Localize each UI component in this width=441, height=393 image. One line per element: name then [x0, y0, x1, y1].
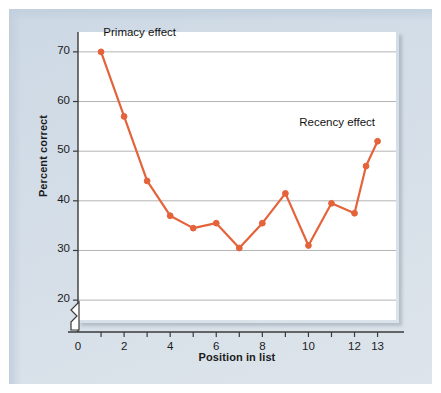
- data-point[interactable]: [306, 243, 312, 249]
- y-axis-break-icon: [71, 302, 79, 330]
- data-point[interactable]: [98, 49, 104, 55]
- data-point[interactable]: [352, 210, 358, 216]
- data-point[interactable]: [329, 200, 335, 206]
- data-point[interactable]: [259, 220, 265, 226]
- data-point[interactable]: [282, 190, 288, 196]
- data-point[interactable]: [236, 245, 242, 251]
- axis-break-zigzag: [71, 302, 79, 330]
- y-axis-title: Percent correct: [37, 96, 49, 216]
- recency-effect-label: Recency effect: [299, 116, 375, 128]
- data-point[interactable]: [213, 220, 219, 226]
- data-point[interactable]: [375, 138, 381, 144]
- y-tick-label-30: 30: [36, 242, 70, 254]
- primacy-effect-label: Primacy effect: [103, 26, 176, 38]
- data-point[interactable]: [121, 114, 127, 120]
- y-tick-label-20: 20: [36, 292, 70, 304]
- data-point[interactable]: [190, 225, 196, 231]
- tick-marks: [73, 52, 378, 337]
- gridlines: [78, 52, 396, 300]
- figure-root: 203040506070 02468101213 Primacy effectR…: [0, 0, 441, 393]
- data-point[interactable]: [363, 163, 369, 169]
- series-line-0: [101, 52, 378, 248]
- y-tick-label-70: 70: [36, 44, 70, 56]
- data-series: [98, 49, 380, 251]
- data-point[interactable]: [144, 178, 150, 184]
- axis-lines: [68, 32, 404, 332]
- x-axis-title: Position in list: [78, 351, 396, 363]
- data-point[interactable]: [167, 213, 173, 219]
